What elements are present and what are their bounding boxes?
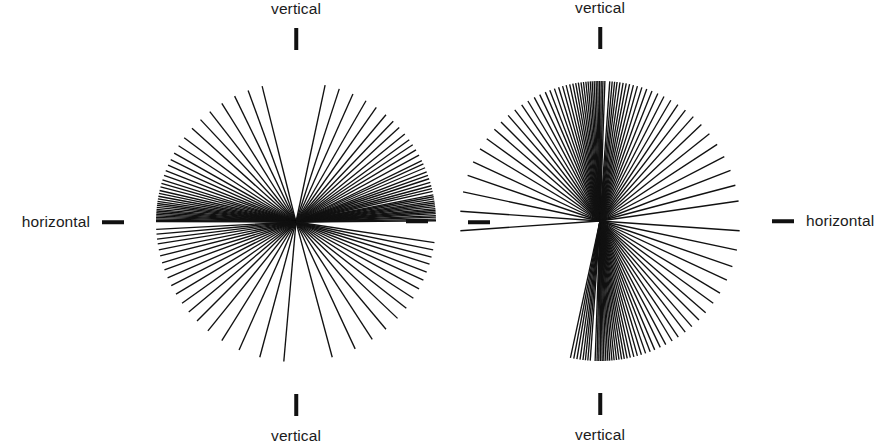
tick-mark-horizontal-right-right-panel: [772, 219, 794, 223]
tick-mark-vertical-bottom-left-panel: [294, 394, 298, 416]
rose-ray: [296, 222, 398, 318]
rose-ray: [460, 221, 600, 231]
figure-root: vertical vertical horizontal vertical ve…: [0, 0, 890, 447]
tick-mark-horizontal-left-right-panel: [406, 219, 428, 223]
axis-label-bottom-left-panel: vertical: [271, 428, 321, 444]
axis-label-horizontal-left-panel: horizontal: [10, 214, 90, 230]
axis-label-top-right-panel: vertical: [575, 0, 625, 16]
tick-mark-vertical-top-left-panel: [294, 28, 298, 50]
tick-mark-vertical-top-right-panel: [598, 27, 602, 49]
axis-label-bottom-right-panel: vertical: [575, 427, 625, 443]
rose-panel-right: vertical vertical horizontal: [440, 0, 890, 447]
rose-ray: [480, 149, 600, 221]
rose-panel-left: vertical vertical horizontal: [0, 0, 470, 447]
rose-ray: [262, 86, 296, 222]
rose-ray: [222, 222, 296, 341]
axis-label-horizontal-right-panel: horizontal: [806, 213, 874, 229]
rose-ray: [600, 221, 720, 293]
tick-mark-horizontal-left-left-panel: [102, 220, 124, 224]
tick-mark-vertical-bottom-right-panel: [598, 393, 602, 415]
rose-ray: [176, 222, 296, 294]
axis-label-top-left-panel: vertical: [271, 1, 321, 17]
